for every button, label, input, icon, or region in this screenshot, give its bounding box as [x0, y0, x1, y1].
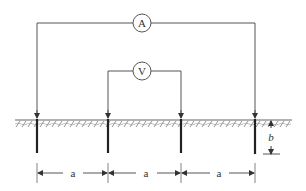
- depth-label: b: [268, 131, 274, 143]
- ammeter-label: A: [138, 17, 146, 29]
- ammeter-icon: A: [133, 14, 151, 32]
- spacing-label-2: a: [144, 167, 149, 179]
- depth-dimension: b: [263, 121, 280, 154]
- spacing-label-1: a: [71, 167, 76, 179]
- wenner-array-diagram: A V b a a: [0, 0, 306, 191]
- ground-surface: [15, 120, 292, 127]
- voltmeter-icon: V: [133, 62, 151, 80]
- voltmeter-label: V: [138, 65, 146, 77]
- spacing-label-3: a: [217, 167, 222, 179]
- spacing-dimensions: a a a: [37, 163, 255, 183]
